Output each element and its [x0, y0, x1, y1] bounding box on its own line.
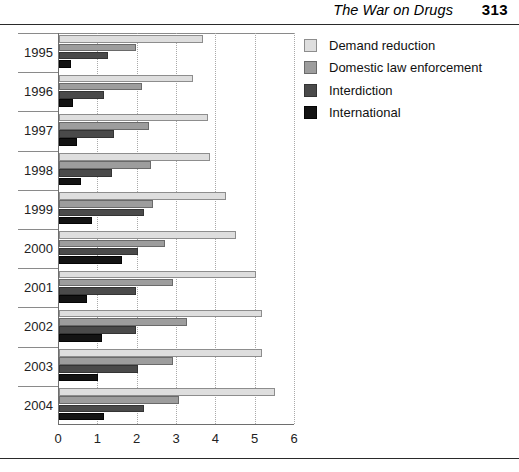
y-axis-tick-label: 2001 — [18, 268, 53, 307]
bar — [59, 114, 208, 122]
bar-group — [59, 309, 295, 344]
bar-group — [59, 113, 295, 148]
legend-item: Demand reduction — [300, 34, 515, 57]
bar — [59, 334, 102, 342]
chart-row: 2003 — [0, 347, 300, 386]
legend-swatch-icon — [304, 84, 317, 97]
bar-group — [59, 388, 295, 423]
legend-swatch-icon — [304, 106, 317, 119]
y-axis-tick-label: 2004 — [18, 386, 53, 425]
bar-group — [59, 192, 295, 227]
bar — [59, 99, 73, 107]
bar — [59, 138, 77, 146]
bar — [59, 35, 203, 43]
bar — [59, 357, 173, 365]
x-axis: 0123456 — [0, 425, 300, 451]
y-axis-tick-label: 2002 — [18, 307, 53, 346]
bar — [59, 310, 262, 318]
chart-row: 1999 — [0, 190, 300, 229]
bar — [59, 169, 112, 177]
bar — [59, 396, 179, 404]
bar-group — [59, 74, 295, 109]
bar-group — [59, 35, 295, 70]
x-axis-tick-label: 2 — [125, 431, 149, 446]
legend-swatch-icon — [304, 39, 317, 52]
legend-label: International — [329, 105, 401, 120]
bar — [59, 192, 226, 200]
bar — [59, 240, 165, 248]
chart-row: 2004 — [0, 386, 300, 425]
bar — [59, 91, 104, 99]
y-axis-tick-label: 1999 — [18, 190, 53, 229]
bar — [59, 388, 275, 396]
page-number: 313 — [482, 1, 508, 18]
bar — [59, 231, 236, 239]
bar — [59, 318, 187, 326]
bar — [59, 161, 151, 169]
bar — [59, 279, 173, 287]
bar — [59, 295, 87, 303]
bar — [59, 153, 210, 161]
chart-row: 1997 — [0, 111, 300, 150]
bar — [59, 256, 122, 264]
legend-label: Demand reduction — [329, 38, 435, 53]
y-axis-tick-label: 1996 — [18, 72, 53, 111]
bar — [59, 60, 71, 68]
legend-item: Domestic law enforcement — [300, 57, 515, 80]
x-axis-tick-label: 4 — [203, 431, 227, 446]
footer-divider — [0, 458, 519, 459]
legend-item: Interdiction — [300, 79, 515, 102]
bar — [59, 326, 136, 334]
x-axis-tick-label: 3 — [164, 431, 188, 446]
x-axis-tick-label: 5 — [243, 431, 267, 446]
bar-group — [59, 231, 295, 266]
y-axis-tick-label: 2000 — [18, 229, 53, 268]
bar — [59, 349, 262, 357]
bar — [59, 271, 256, 279]
y-axis-tick-label: 1998 — [18, 151, 53, 190]
chart-row: 2002 — [0, 307, 300, 346]
bar — [59, 52, 108, 60]
page-header: The War on Drugs 313 — [0, 0, 519, 26]
bar — [59, 217, 92, 225]
bar — [59, 122, 149, 130]
legend-label: Interdiction — [329, 83, 393, 98]
chart-row: 2000 — [0, 229, 300, 268]
bar-group — [59, 270, 295, 305]
bar-group — [59, 153, 295, 188]
bar — [59, 130, 114, 138]
bar — [59, 178, 81, 186]
chart-row: 1998 — [0, 151, 300, 190]
y-axis-tick-label: 1995 — [18, 33, 53, 72]
bar — [59, 75, 193, 83]
bar — [59, 248, 138, 256]
running-head-title: The War on Drugs — [333, 2, 453, 18]
chart-row: 1995 — [0, 33, 300, 72]
header-divider — [0, 24, 519, 25]
bar — [59, 200, 153, 208]
legend-item: International — [300, 102, 515, 125]
x-axis-tick-label: 6 — [282, 431, 306, 446]
y-axis-tick-label: 2003 — [18, 347, 53, 386]
bar — [59, 405, 144, 413]
bar — [59, 413, 104, 421]
chart-legend: Demand reductionDomestic law enforcement… — [300, 34, 515, 124]
legend-swatch-icon — [304, 61, 317, 74]
grouped-bar-chart: 1995199619971998199920002001200220032004… — [0, 33, 300, 433]
chart-row: 1996 — [0, 72, 300, 111]
x-axis-tick-label: 0 — [46, 431, 70, 446]
y-axis-tick-label: 1997 — [18, 111, 53, 150]
bar — [59, 374, 98, 382]
bar-group — [59, 349, 295, 384]
legend-label: Domestic law enforcement — [329, 60, 482, 75]
bar — [59, 287, 136, 295]
bar — [59, 44, 136, 52]
x-axis-tick-label: 1 — [85, 431, 109, 446]
bar — [59, 83, 142, 91]
bar — [59, 209, 144, 217]
chart-row: 2001 — [0, 268, 300, 307]
bar — [59, 365, 138, 373]
